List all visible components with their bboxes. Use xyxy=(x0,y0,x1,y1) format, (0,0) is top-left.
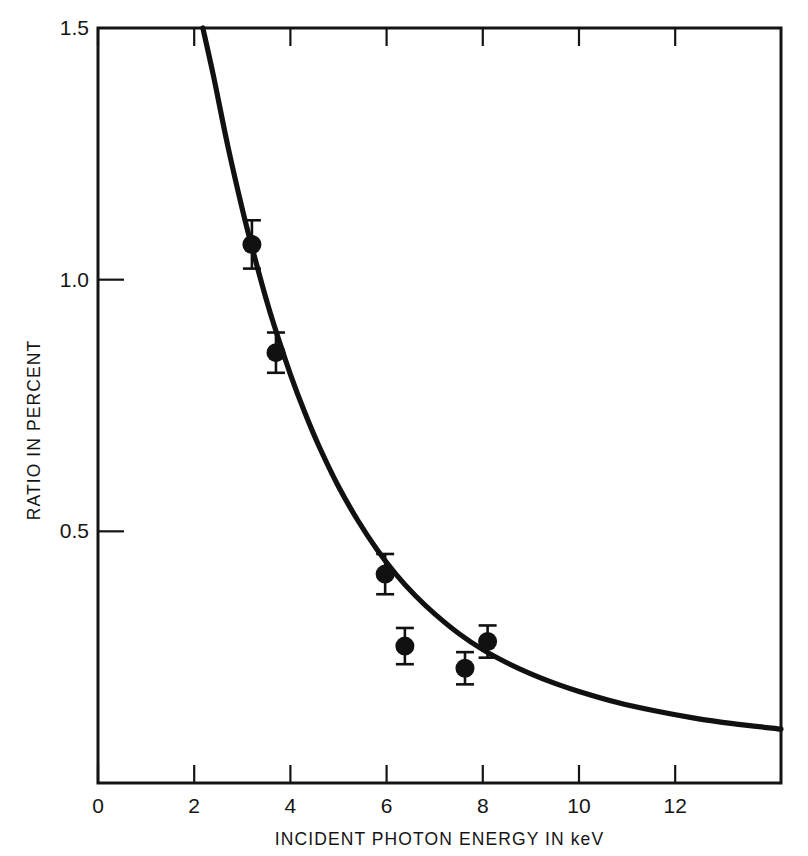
x-axis-tickmarks-top xyxy=(98,28,675,46)
data-point-5 xyxy=(455,652,474,684)
x-tick-label-6: 6 xyxy=(381,794,393,817)
x-axis-title: INCIDENT PHOTON ENERGY IN keV xyxy=(275,829,604,849)
data-point-group xyxy=(242,220,497,684)
y-tick-label-0.5: 0.5 xyxy=(60,519,89,542)
y-tick-label-1.5: 1.5 xyxy=(60,16,89,39)
plot-frame xyxy=(98,28,781,783)
x-axis-tickmarks-bottom xyxy=(98,765,675,783)
y-axis-title: RATIO IN PERCENT xyxy=(24,340,44,521)
data-marker xyxy=(242,235,261,254)
y-axis-tick-labels: 0.51.01.5 xyxy=(60,16,89,542)
x-tick-label-8: 8 xyxy=(477,794,489,817)
data-point-3 xyxy=(376,554,395,594)
y-axis-tickmarks-left xyxy=(98,280,124,532)
data-point-6 xyxy=(478,625,497,657)
x-tick-label-12: 12 xyxy=(664,794,687,817)
figure-container: 024681012 0.51.01.5 INCIDENT PHOTON ENER… xyxy=(0,0,808,856)
data-point-2 xyxy=(266,333,285,373)
data-marker xyxy=(395,637,414,656)
y-tick-label-1.0: 1.0 xyxy=(60,268,89,291)
x-tick-label-4: 4 xyxy=(285,794,297,817)
data-point-4 xyxy=(395,628,414,664)
data-marker xyxy=(455,659,474,678)
fitted-curve-line xyxy=(203,28,781,729)
x-tick-label-10: 10 xyxy=(567,794,590,817)
data-marker xyxy=(478,632,497,651)
x-tick-label-2: 2 xyxy=(188,794,200,817)
x-axis-tick-labels: 024681012 xyxy=(92,794,687,817)
data-marker xyxy=(376,565,395,584)
data-marker xyxy=(266,343,285,362)
chart-canvas: 024681012 0.51.01.5 INCIDENT PHOTON ENER… xyxy=(0,0,808,856)
x-tick-label-0: 0 xyxy=(92,794,104,817)
